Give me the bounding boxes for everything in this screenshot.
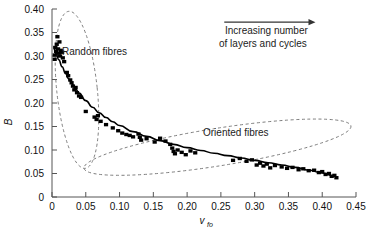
data-point-marker xyxy=(96,114,100,117)
data-point-marker xyxy=(158,137,162,140)
data-point-marker xyxy=(273,164,277,167)
data-point-marker xyxy=(168,143,172,146)
annotation-oriented-fibres: Oriented fibres xyxy=(203,127,269,138)
data-point-marker xyxy=(153,140,157,143)
data-point-marker xyxy=(244,160,248,163)
y-tick-label: 0.15 xyxy=(25,121,45,132)
axis-tick-labels: 00.050.100.150.200.250.300.350.400.45 00… xyxy=(25,4,367,213)
x-tick-label: 0.20 xyxy=(177,201,197,212)
data-point-marker xyxy=(176,148,180,151)
data-point-marker xyxy=(66,74,70,77)
x-tick-label: 0.10 xyxy=(110,201,130,212)
data-point-marker xyxy=(116,129,120,132)
x-axis-tick-labels: 00.050.100.150.200.250.300.350.400.45 xyxy=(49,201,366,212)
data-point-marker xyxy=(188,149,192,152)
data-point-marker xyxy=(99,120,103,123)
data-point-marker xyxy=(296,168,300,171)
x-axis-title-subscript: fo xyxy=(207,221,213,228)
data-point-marker xyxy=(144,137,148,140)
x-tick-label: 0.40 xyxy=(312,201,332,212)
data-point-marker xyxy=(69,81,73,84)
oriented-fibres-ellipse xyxy=(81,107,354,186)
data-point-marker xyxy=(120,131,124,134)
x-tick-label: 0.15 xyxy=(144,201,164,212)
annotation-increasing-layers: Increasing number of layers and cycles xyxy=(219,19,315,49)
x-tick-label: 0.05 xyxy=(76,201,96,212)
data-point-marker xyxy=(111,126,115,129)
data-point-marker xyxy=(163,139,167,142)
data-point-marker xyxy=(307,169,311,172)
data-point-marker xyxy=(53,58,57,61)
data-point-marker xyxy=(250,158,254,161)
increasing-layers-arrow-head xyxy=(308,19,315,25)
data-point-marker xyxy=(290,166,294,169)
y-tick-label: 0.05 xyxy=(25,168,45,179)
data-point-marker xyxy=(62,60,66,63)
y-tick-label: 0.35 xyxy=(25,27,45,38)
data-point-marker xyxy=(79,96,83,99)
data-point-marker xyxy=(268,166,272,169)
x-tick-label: 0.25 xyxy=(211,201,231,212)
x-axis-title-base: v xyxy=(200,215,206,226)
annotation-ellipses xyxy=(49,9,354,187)
data-point-marker xyxy=(94,118,98,121)
y-tick-label: 0 xyxy=(38,192,44,203)
data-point-marker xyxy=(280,165,284,168)
data-point-marker xyxy=(170,146,174,149)
data-point-marker xyxy=(55,35,59,38)
data-point-marker xyxy=(334,176,338,179)
x-tick-label: 0.35 xyxy=(279,201,299,212)
data-point-marker xyxy=(53,53,57,56)
data-point-marker xyxy=(301,167,305,170)
increasing-layers-line2: of layers and cycles xyxy=(219,38,307,49)
y-tick-label: 0.25 xyxy=(25,74,45,85)
data-point-marker xyxy=(74,86,78,89)
y-tick-label: 0.40 xyxy=(25,4,45,15)
x-tick-label: 0 xyxy=(49,201,55,212)
data-point-marker xyxy=(265,162,269,165)
data-point-marker xyxy=(180,151,184,154)
annotation-random-fibres: Random fibres xyxy=(62,46,127,57)
plot-axes xyxy=(52,9,356,197)
data-point-marker xyxy=(75,91,79,94)
y-tick-label: 0.30 xyxy=(25,51,45,62)
data-point-marker xyxy=(84,110,88,113)
data-point-marker xyxy=(184,153,188,156)
figure-container: 00.050.100.150.200.250.300.350.400.45 00… xyxy=(0,0,381,237)
increasing-layers-line1: Increasing number xyxy=(225,25,308,36)
data-point-marker xyxy=(193,151,197,154)
data-point-marker xyxy=(136,132,140,135)
data-point-marker xyxy=(173,152,177,155)
data-point-marker xyxy=(104,123,108,126)
random-fibres-label: Random fibres xyxy=(62,46,127,57)
data-point-marker xyxy=(231,159,235,162)
data-point-marker xyxy=(285,167,289,170)
chart-svg: 00.050.100.150.200.250.300.350.400.45 00… xyxy=(0,0,381,237)
y-axis-title: B xyxy=(3,118,14,125)
data-point-marker xyxy=(139,138,143,141)
x-axis-ticks xyxy=(52,192,356,197)
data-point-marker xyxy=(57,40,61,43)
data-point-marker xyxy=(65,71,69,74)
y-tick-label: 0.20 xyxy=(25,98,45,109)
oriented-fibres-label: Oriented fibres xyxy=(203,127,269,138)
data-point-marker xyxy=(312,169,316,172)
y-axis-tick-labels: 00.050.100.150.200.250.300.350.40 xyxy=(25,4,45,203)
data-point-marker xyxy=(238,157,242,160)
data-point-marker xyxy=(131,135,135,138)
y-tick-label: 0.10 xyxy=(25,145,45,156)
x-tick-label: 0.30 xyxy=(245,201,265,212)
fitted-trend-curve xyxy=(53,47,335,177)
x-tick-label: 0.45 xyxy=(346,201,366,212)
